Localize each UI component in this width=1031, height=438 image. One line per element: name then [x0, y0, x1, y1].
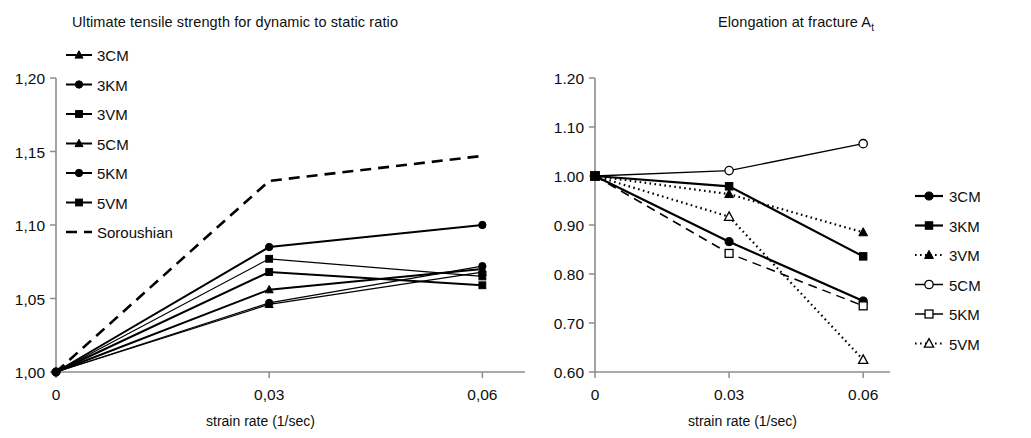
legend-label-3CM: 3CM [949, 188, 981, 205]
y-tick-label-3: 0.90 [554, 217, 585, 234]
legend-item-5VM[interactable]: 5VM [66, 195, 128, 212]
series-group [591, 139, 868, 363]
y-tick-label-4: 1,20 [15, 70, 46, 87]
marker-5KM-1 [266, 299, 273, 306]
marker-3KM-2 [859, 253, 866, 260]
marker-5VM-1 [724, 212, 733, 220]
chart-svg-elongation: 0.600.700.800.901.001.101.2000.030.06str… [545, 0, 1031, 438]
legend-group: 3CM3KM3VM5CM5KM5VMSoroushian [66, 47, 173, 241]
marker-3VM-1 [725, 190, 734, 198]
legend-marker-3CM [925, 192, 933, 200]
marker-5KM-1 [725, 249, 733, 257]
y-tick-label-0: 1,00 [15, 364, 46, 381]
legend-label-5KM: 5KM [949, 306, 980, 323]
marker-5VM-1 [266, 255, 273, 262]
legend-label-5KM: 5KM [97, 165, 128, 182]
marker-3VM-2 [479, 282, 486, 289]
marker-3KM-2 [479, 221, 486, 228]
legend-label-Soroushian: Soroushian [97, 224, 173, 241]
x-axis-label: strain rate (1/sec) [688, 413, 797, 429]
x-tick-label-0: 0 [52, 386, 61, 403]
legend-item-3KM[interactable]: 3KM [915, 218, 980, 235]
marker-3VM-2 [859, 228, 868, 236]
marker-5CM-2 [859, 139, 867, 147]
chart-panel-elongation: Elongation at fracture At 0.600.700.800.… [545, 0, 1031, 438]
y-tick-label-6: 1.20 [554, 70, 585, 87]
x-tick-label-1: 0.03 [714, 386, 744, 403]
y-tick-label-2: 0.80 [554, 266, 585, 283]
series-line-5VM [595, 176, 863, 360]
legend-item-3KM[interactable]: 3KM [66, 77, 128, 94]
legend-marker-3KM [925, 222, 932, 229]
legend-label-3KM: 3KM [97, 77, 128, 94]
x-tick-label-2: 0,06 [467, 386, 497, 403]
legend-item-3VM[interactable]: 3VM [915, 247, 980, 264]
legend-item-5VM[interactable]: 5VM [915, 336, 980, 353]
axis-lines [595, 78, 890, 372]
legend-label-5VM: 5VM [949, 336, 980, 353]
legend-group: 3CM3KM3VM5CM5KM5VM [915, 188, 981, 353]
legend-item-5CM[interactable]: 5CM [915, 277, 981, 294]
marker-origin-cluster [591, 172, 600, 181]
legend-item-3VM[interactable]: 3VM [66, 106, 128, 123]
legend-label-5CM: 5CM [949, 277, 981, 294]
series-group [52, 156, 487, 376]
legend-label-3KM: 3KM [949, 218, 980, 235]
x-axis-label: strain rate (1/sec) [206, 413, 315, 429]
legend-label-5CM: 5CM [97, 136, 129, 153]
y-tick-label-1: 1,05 [15, 291, 45, 308]
legend-item-3CM[interactable]: 3CM [66, 47, 129, 64]
x-tick-label-1: 0,03 [254, 386, 284, 403]
y-tick-label-3: 1,15 [15, 144, 45, 161]
y-tick-label-4: 1.00 [554, 168, 585, 185]
y-tick-label-0: 0.60 [554, 364, 585, 381]
marker-3KM-1 [266, 243, 273, 250]
marker-origin-cluster [52, 368, 60, 376]
legend-item-5KM[interactable]: 5KM [66, 165, 128, 182]
legend-item-5CM[interactable]: 5CM [66, 136, 129, 153]
legend-item-3CM[interactable]: 3CM [915, 188, 981, 205]
legend-marker-5KM [75, 169, 82, 176]
marker-3CM-1 [725, 238, 733, 246]
marker-5KM-2 [859, 302, 867, 310]
chart-svg-tensile-strength: 1,001,051,101,151,2000,030,06strain rate… [0, 0, 545, 438]
y-tick-label-5: 1.10 [554, 119, 585, 136]
marker-3VM-1 [266, 269, 273, 276]
legend-marker-3KM [75, 81, 82, 88]
series-line-Soroushian [56, 156, 482, 372]
legend-label-5VM: 5VM [97, 195, 128, 212]
x-tick-label-0: 0 [591, 386, 600, 403]
legend-item-5KM[interactable]: 5KM [915, 306, 980, 323]
legend-label-3VM: 3VM [97, 106, 128, 123]
marker-5CM-1 [725, 166, 733, 174]
y-tick-label-2: 1,10 [15, 217, 46, 234]
legend-marker-5VM [76, 199, 83, 206]
marker-5KM-2 [479, 262, 486, 269]
legend-label-3CM: 3CM [97, 47, 129, 64]
y-tick-label-1: 0.70 [554, 315, 585, 332]
chart-panel-tensile-strength: Ultimate tensile strength for dynamic to… [0, 0, 545, 438]
axes-group: 0.600.700.800.901.001.101.2000.030.06str… [554, 70, 890, 429]
legend-marker-3VM [76, 111, 83, 118]
legend-marker-5CM [925, 280, 933, 288]
x-tick-label-2: 0.06 [848, 386, 878, 403]
legend-label-3VM: 3VM [949, 247, 980, 264]
marker-5VM-2 [479, 273, 486, 280]
legend-marker-5KM [925, 310, 933, 318]
legend-item-Soroushian[interactable]: Soroushian [66, 224, 173, 241]
